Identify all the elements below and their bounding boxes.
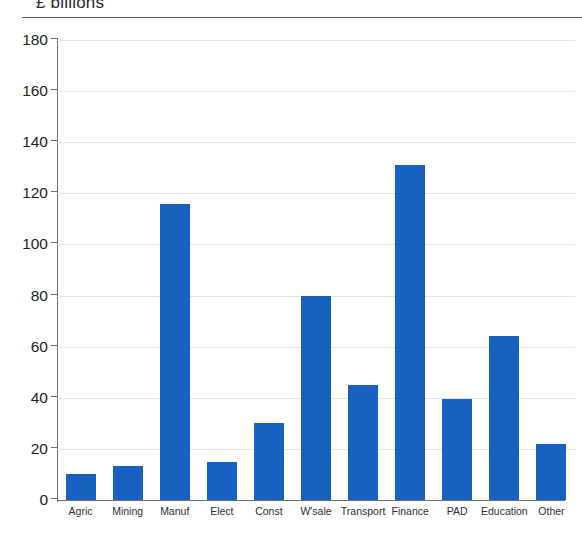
x-tick-label: PAD xyxy=(447,505,468,517)
bar xyxy=(442,399,472,500)
bar-slot xyxy=(481,40,528,500)
axis-baseline xyxy=(57,500,565,501)
y-tick-mark xyxy=(51,38,58,39)
y-tick-label: 180 xyxy=(22,31,48,49)
y-axis-tick-labels: 020406080100120140160180 xyxy=(0,40,48,500)
chart-page: £ billions 020406080100120140160180 Agri… xyxy=(0,0,582,542)
header-divider xyxy=(22,17,582,18)
x-tick-label: Education xyxy=(481,505,528,517)
bar-series xyxy=(57,40,575,500)
y-tick-label: 120 xyxy=(22,184,48,202)
x-tick-label: Transport xyxy=(341,505,386,517)
bar-slot xyxy=(434,40,481,500)
bar-slot xyxy=(57,40,104,500)
bar xyxy=(254,423,284,500)
bar-slot xyxy=(528,40,575,500)
bar xyxy=(66,474,96,500)
bar-slot xyxy=(387,40,434,500)
x-tick-label: Mining xyxy=(112,505,143,517)
y-tick-label: 0 xyxy=(39,491,48,509)
bar xyxy=(113,466,143,501)
x-tick-label: Const xyxy=(255,505,282,517)
bar xyxy=(395,165,425,500)
bar-slot xyxy=(292,40,339,500)
x-tick-label: Manuf xyxy=(160,505,189,517)
bar xyxy=(536,444,566,500)
x-tick-label: Other xyxy=(538,505,564,517)
x-tick-label: Elect xyxy=(210,505,233,517)
bar-slot xyxy=(151,40,198,500)
bar-slot xyxy=(340,40,387,500)
bar xyxy=(489,336,519,500)
y-tick-label: 100 xyxy=(22,235,48,253)
y-tick-label: 60 xyxy=(31,338,48,356)
bar-slot xyxy=(198,40,245,500)
x-axis-tick-labels: AgricMiningManufElectConstW'saleTranspor… xyxy=(57,505,575,529)
bar xyxy=(207,462,237,500)
y-tick-label: 20 xyxy=(31,440,48,458)
bar xyxy=(301,296,331,500)
bar xyxy=(160,204,190,500)
bar xyxy=(348,385,378,500)
bar-slot xyxy=(104,40,151,500)
x-tick-label: W'sale xyxy=(300,505,331,517)
x-tick-label: Agric xyxy=(69,505,93,517)
unit-caption: £ billions xyxy=(36,0,104,13)
bar-slot xyxy=(245,40,292,500)
x-tick-label: Finance xyxy=(391,505,428,517)
y-tick-label: 140 xyxy=(22,133,48,151)
y-tick-label: 40 xyxy=(31,389,48,407)
y-tick-label: 160 xyxy=(22,82,48,100)
y-tick-label: 80 xyxy=(31,287,48,305)
